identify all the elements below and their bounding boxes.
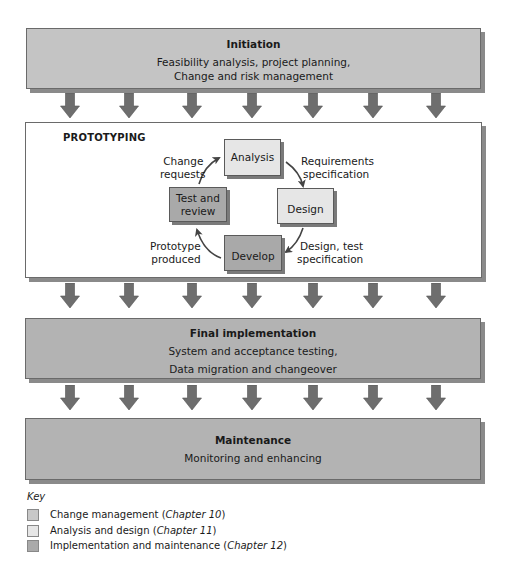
arrow-row bbox=[0, 93, 512, 119]
node-label-line: Test and bbox=[176, 192, 220, 205]
key-label: Implementation and maintenance (Chapter … bbox=[50, 540, 287, 551]
phase-title: Final implementation bbox=[26, 327, 480, 339]
node-label-line: review bbox=[181, 205, 216, 218]
down-arrow-icon bbox=[426, 385, 446, 411]
node-label: Analysis bbox=[231, 151, 274, 164]
phase-description-line: Feasibility analysis, project planning, bbox=[27, 55, 480, 69]
down-arrow-icon bbox=[182, 283, 202, 309]
key-item-implementation-maintenance: Implementation and maintenance (Chapter … bbox=[27, 539, 287, 552]
node-label: Design bbox=[287, 203, 323, 216]
down-arrow-icon bbox=[303, 385, 323, 411]
key-swatch bbox=[27, 540, 39, 552]
down-arrow-icon bbox=[182, 385, 202, 411]
node-develop: Develop bbox=[224, 235, 282, 271]
down-arrow-icon bbox=[60, 385, 80, 411]
down-arrow-icon bbox=[119, 93, 139, 119]
down-arrow-icon bbox=[303, 93, 323, 119]
node-test-and-review: Test and review bbox=[169, 187, 227, 222]
key-swatch bbox=[27, 509, 39, 521]
label-design-test-specification: Design, test specification bbox=[297, 240, 363, 266]
down-arrow-icon bbox=[363, 385, 383, 411]
down-arrow-icon bbox=[60, 283, 80, 309]
down-arrow-icon bbox=[119, 283, 139, 309]
down-arrow-icon bbox=[363, 283, 383, 309]
key-item-analysis-design: Analysis and design (Chapter 11) bbox=[27, 524, 216, 537]
prototyping-label: PROTOTYPING bbox=[63, 132, 146, 143]
node-analysis: Analysis bbox=[224, 139, 281, 176]
arrow-row bbox=[0, 385, 512, 411]
down-arrow-icon bbox=[363, 93, 383, 119]
node-design: Design bbox=[277, 188, 334, 224]
phase-description-line: Monitoring and enhancing bbox=[26, 451, 480, 465]
phase-final-implementation: Final implementation System and acceptan… bbox=[25, 318, 481, 379]
key-item-change-management: Change management (Chapter 10) bbox=[27, 508, 225, 521]
down-arrow-icon bbox=[182, 93, 202, 119]
down-arrow-icon bbox=[426, 93, 446, 119]
down-arrow-icon bbox=[426, 283, 446, 309]
phase-description-line: Data migration and changeover bbox=[26, 362, 480, 376]
key-title: Key bbox=[27, 491, 45, 502]
key-label: Analysis and design (Chapter 11) bbox=[50, 525, 216, 536]
key-swatch bbox=[27, 525, 39, 537]
down-arrow-icon bbox=[242, 283, 262, 309]
phase-title: Maintenance bbox=[26, 434, 480, 446]
down-arrow-icon bbox=[119, 385, 139, 411]
label-requirements-specification: Requirements specification bbox=[299, 155, 374, 181]
down-arrow-icon bbox=[303, 283, 323, 309]
node-label: Develop bbox=[231, 250, 274, 263]
key-label: Change management (Chapter 10) bbox=[50, 509, 225, 520]
lifecycle-diagram: Initiation Feasibility analysis, project… bbox=[0, 0, 512, 583]
phase-description-line: Change and risk management bbox=[27, 69, 480, 83]
phase-initiation: Initiation Feasibility analysis, project… bbox=[26, 28, 481, 89]
down-arrow-icon bbox=[242, 385, 262, 411]
down-arrow-icon bbox=[242, 93, 262, 119]
phase-maintenance: Maintenance Monitoring and enhancing bbox=[25, 418, 481, 480]
phase-title: Initiation bbox=[27, 38, 480, 50]
phase-description-line: System and acceptance testing, bbox=[26, 344, 480, 358]
arrow-row bbox=[0, 283, 512, 309]
label-change-requests: Change requests bbox=[160, 155, 205, 181]
label-prototype-produced: Prototype produced bbox=[150, 240, 201, 266]
down-arrow-icon bbox=[60, 93, 80, 119]
